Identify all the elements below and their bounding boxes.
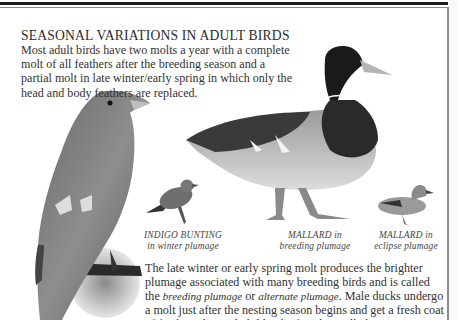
mallard-eclipse-illustration (378, 185, 434, 226)
caption-line-2: breeding plumage (275, 241, 355, 252)
term-alternate-plumage: alternate plumage (258, 290, 338, 302)
caption-line-1: INDIGO BUNTING (137, 230, 229, 241)
caption-indigo-bunting: INDIGO BUNTING in winter plumage (137, 230, 229, 252)
term-breeding-plumage: breeding plumage (163, 290, 242, 302)
caption-mallard-eclipse: MALLARD in eclipse plumage (370, 230, 442, 252)
indigo-bunting-small-illustration (146, 180, 199, 225)
body-paragraph: The late winter or early spring molt pro… (145, 261, 445, 320)
caption-line-1: MALLARD in (275, 230, 355, 241)
intro-paragraph: Most adult birds have two molts a year w… (21, 43, 296, 100)
body-text: or (242, 289, 258, 303)
caption-mallard-breeding: MALLARD in breeding plumage (275, 230, 355, 252)
indigo-bunting-large-illustration (35, 91, 150, 320)
caption-line-1: MALLARD in (370, 230, 442, 241)
caption-line-2: in winter plumage (137, 241, 229, 252)
page-title: SEASONAL VARIATIONS IN ADULT BIRDS (21, 28, 290, 44)
caption-line-2: eclipse plumage (370, 241, 442, 252)
